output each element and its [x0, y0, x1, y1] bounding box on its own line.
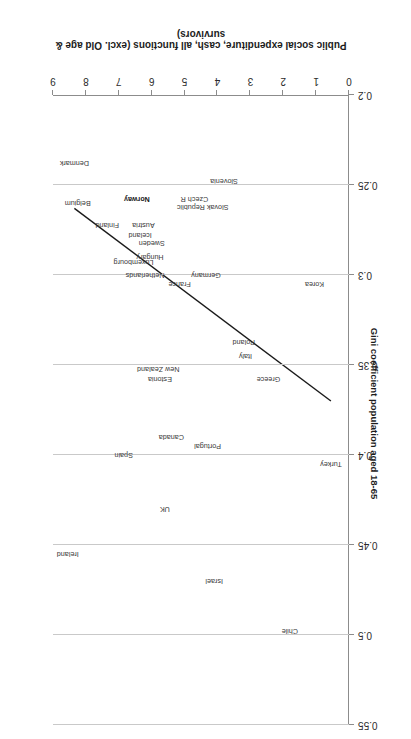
y-tick-label: 0.25: [358, 180, 377, 191]
y-axis-tick: [349, 274, 354, 275]
data-point-label: Portugal: [194, 442, 221, 451]
data-point-label: Canada: [159, 433, 184, 442]
x-tick-label: 2: [280, 76, 286, 87]
data-point-label: Belgium: [65, 199, 91, 208]
trendline: [53, 95, 349, 725]
x-tick-label: 3: [248, 76, 254, 87]
x-tick-label: 6: [149, 76, 155, 87]
data-point-label: Italy: [239, 352, 252, 361]
data-point-label: Estonia: [148, 375, 172, 384]
x-tick-label: 5: [182, 76, 188, 87]
data-point-label: Slovenia: [210, 177, 238, 186]
data-point-label: Turkey: [320, 460, 342, 469]
data-point-label: Norway: [124, 195, 150, 204]
y-axis-tick: [349, 454, 354, 455]
x-axis-tick: [249, 90, 250, 95]
y-axis-tick: [349, 94, 354, 95]
gridline: [53, 454, 349, 455]
gridline: [53, 634, 349, 635]
y-tick-label: 0.2: [358, 90, 372, 101]
data-point-label: Chile: [282, 627, 298, 636]
x-tick-label: 7: [116, 76, 122, 87]
plot-area: 0.20.250.30.350.40.450.50.55 0123456789 …: [53, 95, 349, 725]
y-tick-label: 0.55: [358, 720, 377, 731]
data-point-label: New Zealand: [137, 364, 179, 373]
data-point-label: Korea: [305, 280, 324, 289]
x-tick-label: 4: [215, 76, 221, 87]
y-tick-label: 0.3: [358, 270, 372, 281]
data-point-label: France: [168, 280, 190, 289]
y-axis-tick: [349, 364, 354, 365]
x-axis-tick: [282, 90, 283, 95]
data-point-label: Poland: [233, 337, 255, 346]
x-axis-tick: [315, 90, 316, 95]
x-axis-title: Public social expenditure, cash, all fun…: [53, 29, 349, 51]
data-point-label: Iceland: [129, 231, 152, 240]
data-point-label: Spain: [115, 451, 133, 460]
data-point-label: Netherlands: [126, 271, 165, 280]
y-axis-tick: [349, 634, 354, 635]
x-tick-label: 8: [83, 76, 89, 87]
x-tick-label: 9: [50, 76, 56, 87]
data-point-label: Greece: [257, 375, 281, 384]
x-axis-tick: [52, 90, 53, 95]
data-point-label: Luxembourg: [114, 258, 154, 267]
data-point-label: Ireland: [57, 550, 79, 559]
gridline: [53, 724, 349, 725]
x-axis-tick: [151, 90, 152, 95]
rotated-figure-wrapper: 0.20.250.30.350.40.450.50.55 0123456789 …: [0, 0, 411, 739]
data-point-label: Denmark: [60, 159, 89, 168]
x-tick-label: 0: [346, 76, 352, 87]
gridline: [53, 364, 349, 365]
chart-figure: 0.20.250.30.350.40.450.50.55 0123456789 …: [0, 0, 411, 739]
data-point-label: Germany: [191, 271, 221, 280]
x-axis-tick: [348, 90, 349, 95]
gridline: [53, 184, 349, 185]
y-tick-label: 0.5: [358, 630, 372, 641]
x-axis-tick: [184, 90, 185, 95]
x-tick-label: 1: [313, 76, 319, 87]
x-axis-tick: [216, 90, 217, 95]
y-tick-label: 0.45: [358, 540, 377, 551]
x-axis-tick: [118, 90, 119, 95]
gridline: [53, 544, 349, 545]
data-point-label: Austria: [132, 220, 154, 229]
data-point-label: UK: [160, 505, 170, 514]
data-point-label: Czech R: [181, 195, 209, 204]
y-axis-tick: [349, 544, 354, 545]
data-point-label: Finland: [95, 220, 119, 229]
y-axis-tick: [349, 724, 354, 725]
y-axis-title: Gini coefficient population aged 18-65: [369, 299, 380, 529]
x-axis-tick: [85, 90, 86, 95]
data-point-label: Israel: [205, 577, 223, 586]
y-axis-tick: [349, 184, 354, 185]
